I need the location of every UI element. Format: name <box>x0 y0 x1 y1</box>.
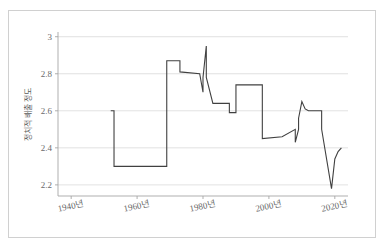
y-axis-title: 정치적 배출 정도 <box>23 88 33 141</box>
y-tick-label: 2.8 <box>41 69 53 79</box>
y-tick-label: 3 <box>48 32 53 42</box>
y-tick-labels: 2.22.42.62.83 <box>41 32 53 190</box>
x-tick-label: 1980년 <box>189 198 217 213</box>
x-tick-label: 1940년 <box>57 198 85 213</box>
gridlines <box>58 37 348 185</box>
x-tick-label: 2000년 <box>255 198 283 213</box>
data-series <box>111 46 342 189</box>
y-axis-title-text: 정치적 배출 정도 <box>23 88 33 141</box>
x-tick-label: 1960년 <box>123 198 151 213</box>
chart-figure: 2.22.42.62.83 1940년1960년1980년2000년2020년 … <box>0 0 385 248</box>
line-chart: 2.22.42.62.83 1940년1960년1980년2000년2020년 … <box>0 0 385 248</box>
y-tick-label: 2.2 <box>41 180 52 190</box>
series-line-path <box>111 46 342 189</box>
y-tick-label: 2.6 <box>41 106 53 116</box>
y-tick-label: 2.4 <box>41 143 53 153</box>
x-tick-labels: 1940년1960년1980년2000년2020년 <box>57 198 348 213</box>
axes <box>58 32 348 196</box>
x-tick-label: 2020년 <box>320 198 348 213</box>
tick-marks <box>55 37 335 199</box>
